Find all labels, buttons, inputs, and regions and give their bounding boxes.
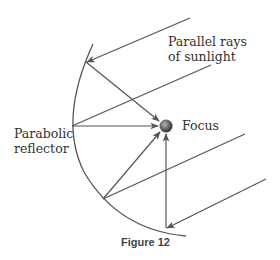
figure-caption: Figure 12: [121, 236, 170, 248]
incoming-ray-4: [167, 179, 266, 228]
rays-label: Parallel rays of sunlight: [168, 34, 247, 64]
incoming-ray-3: [103, 134, 245, 199]
rays-label-line1: Parallel rays: [168, 34, 247, 49]
reflector-label: Parabolic reflector: [14, 126, 73, 156]
focus-point: [160, 120, 173, 133]
incoming-ray-2: [72, 65, 211, 126]
focus-label: Focus: [182, 118, 219, 133]
reflector-label-line2: reflector: [14, 141, 73, 156]
parabolic-reflector-diagram: Parallel rays of sunlight Parabolic refl…: [0, 0, 280, 260]
parabolic-reflector-curve: [73, 44, 186, 236]
reflected-ray-3: [103, 132, 160, 199]
rays-label-line2: of sunlight: [168, 49, 247, 64]
reflector-label-line1: Parabolic: [14, 126, 73, 141]
reflected-ray-1: [86, 62, 159, 121]
